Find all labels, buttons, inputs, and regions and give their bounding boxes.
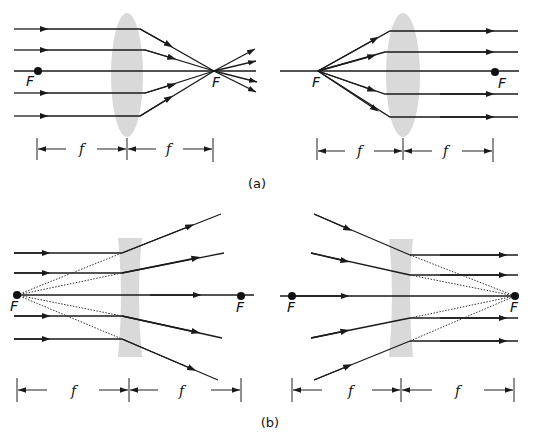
- focal-label-left: F: [287, 299, 296, 315]
- svg-text:f: f: [454, 383, 463, 399]
- focal-label-right: F: [498, 75, 507, 91]
- svg-text:f: f: [178, 383, 187, 399]
- focal-label-left: F: [312, 74, 321, 90]
- focal-label-right: F: [510, 299, 519, 315]
- focal-label-left: F: [10, 298, 19, 314]
- svg-text:f: f: [347, 383, 356, 399]
- panel-a-left: F F f f: [14, 13, 257, 162]
- svg-text:f: f: [78, 141, 87, 157]
- focal-point-dot: [34, 67, 42, 75]
- optics-diagram: F F f f: [0, 0, 536, 442]
- dimension-line: f f: [292, 378, 514, 402]
- dimension-line: f f: [37, 138, 213, 162]
- svg-text:f: f: [356, 143, 365, 159]
- caption-b: (b): [261, 415, 279, 430]
- panel-a-right: F F f f: [280, 13, 519, 162]
- svg-text:f: f: [70, 383, 79, 399]
- focal-label-left: F: [26, 73, 35, 89]
- caption-a: (a): [248, 176, 266, 191]
- panel-b-right: F F f f: [280, 214, 519, 402]
- svg-text:f: f: [442, 143, 451, 159]
- converging-lens: [111, 13, 143, 137]
- focal-label-right: F: [236, 299, 245, 315]
- svg-text:f: f: [165, 141, 174, 157]
- dimension-line: f f: [17, 378, 241, 402]
- focal-label-right: F: [212, 74, 221, 90]
- diverging-lens: [389, 239, 413, 357]
- dimension-line: f f: [317, 138, 493, 162]
- panel-b-left: F F f f: [10, 214, 254, 402]
